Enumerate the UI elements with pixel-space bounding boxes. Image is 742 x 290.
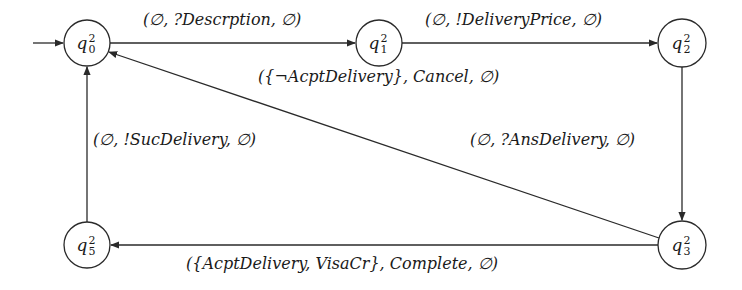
edge-label-q3-q0: ({¬AcptDelivery}, Cancel, ∅) bbox=[258, 69, 499, 85]
state-sub: 5 bbox=[88, 246, 95, 257]
edge-label-q3-q5: ({AcptDelivery, VisaCr}, Complete, ∅) bbox=[186, 256, 498, 272]
edge-label-q2-q3: (∅, ?AnsDelivery, ∅) bbox=[470, 132, 635, 148]
state-base: q bbox=[672, 235, 683, 255]
state-base: q bbox=[77, 235, 88, 255]
state-sub: 2 bbox=[683, 44, 690, 55]
state-base: q bbox=[672, 33, 683, 53]
edge-label-q1-q2: (∅, !DeliveryPrice, ∅) bbox=[425, 12, 602, 28]
state-label-q3: q23 bbox=[672, 235, 691, 257]
state-label-q2: q22 bbox=[672, 33, 691, 55]
edge-label-q5-q0: (∅, !SucDelivery, ∅) bbox=[93, 132, 256, 148]
state-label-q5: q25 bbox=[77, 235, 96, 257]
state-sub: 0 bbox=[88, 44, 95, 55]
state-label-q0: q20 bbox=[77, 33, 96, 55]
edge-label-q0-q1: (∅, ?Descrption, ∅) bbox=[143, 12, 301, 28]
state-sub: 1 bbox=[380, 44, 387, 55]
state-base: q bbox=[369, 33, 380, 53]
state-base: q bbox=[77, 33, 88, 53]
state-label-q1: q21 bbox=[369, 33, 388, 55]
state-sub: 3 bbox=[683, 246, 690, 257]
